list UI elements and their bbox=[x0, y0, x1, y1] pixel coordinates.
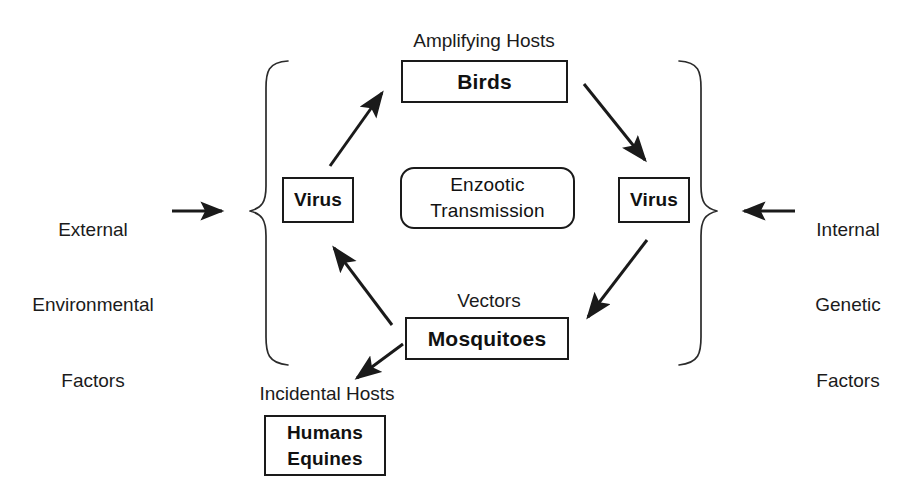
node-equines-label: Equines bbox=[287, 446, 362, 472]
vectors-label: Vectors bbox=[411, 288, 567, 313]
node-virus-right: Virus bbox=[618, 177, 690, 223]
node-birds: Birds bbox=[401, 60, 568, 103]
external-label-line-1: External bbox=[18, 217, 168, 242]
arrow-birds-to-virus-right-icon bbox=[584, 84, 645, 160]
amplifying-hosts-label: Amplifying Hosts bbox=[381, 28, 587, 53]
node-mosquitoes: Mosquitoes bbox=[405, 317, 569, 360]
arrow-virus-left-to-birds-icon bbox=[330, 93, 382, 166]
node-virus-left-label: Virus bbox=[294, 189, 342, 211]
arrow-virus-right-to-mosquitoes-icon bbox=[588, 240, 647, 317]
external-environmental-factors-label: External Environmental Factors bbox=[18, 167, 168, 443]
node-birds-label: Birds bbox=[457, 70, 512, 94]
node-virus-right-label: Virus bbox=[630, 189, 678, 211]
node-humans-equines: Humans Equines bbox=[264, 415, 386, 476]
node-virus-left: Virus bbox=[282, 177, 354, 223]
incidental-hosts-label: Incidental Hosts bbox=[218, 381, 436, 406]
internal-genetic-factors-label: Internal Genetic Factors bbox=[800, 167, 896, 443]
external-label-line-3: Factors bbox=[18, 368, 168, 393]
arrow-mosquitoes-to-incidental-hosts-icon bbox=[357, 344, 403, 378]
node-humans-label: Humans bbox=[287, 420, 363, 446]
node-enzootic-transmission: Enzootic Transmission bbox=[400, 167, 575, 229]
enzootic-label-line-1: Enzootic bbox=[450, 172, 524, 198]
node-mosquitoes-label: Mosquitoes bbox=[428, 327, 547, 351]
internal-label-line-1: Internal bbox=[800, 217, 896, 242]
arrow-mosquitoes-to-virus-left-icon bbox=[334, 248, 392, 325]
internal-label-line-3: Factors bbox=[800, 368, 896, 393]
enzootic-label-line-2: Transmission bbox=[430, 198, 545, 224]
diagram-canvas: External Environmental Factors Internal … bbox=[0, 0, 901, 489]
external-label-line-2: Environmental bbox=[18, 292, 168, 317]
internal-label-line-2: Genetic bbox=[800, 292, 896, 317]
